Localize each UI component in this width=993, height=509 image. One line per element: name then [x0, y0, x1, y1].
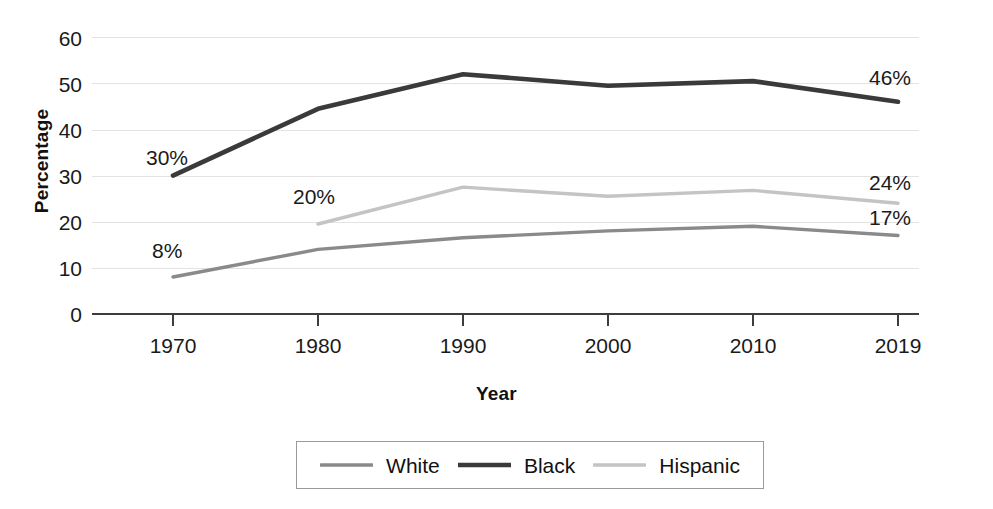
- plot-area: 60 50 40 30 20 10 0 1970 1980 1990 2000: [0, 0, 993, 509]
- y-axis-title: Percentage: [31, 86, 53, 236]
- data-label-white-2019: 17%: [869, 207, 911, 228]
- data-label-hispanic-1980: 20%: [293, 186, 335, 207]
- chart-legend: White Black Hispanic: [296, 441, 764, 489]
- data-label-black-1970: 30%: [146, 147, 188, 168]
- legend-swatch-white: [320, 461, 373, 469]
- legend-swatch-black: [458, 461, 511, 469]
- legend-label-white: White: [386, 455, 440, 476]
- chart-figure: 60 50 40 30 20 10 0 1970 1980 1990 2000: [0, 0, 993, 509]
- legend-swatch-hispanic: [593, 461, 646, 469]
- legend-item-hispanic[interactable]: Hispanic: [593, 455, 740, 476]
- data-label-white-1970: 8%: [152, 240, 182, 261]
- legend-item-black[interactable]: Black: [458, 455, 575, 476]
- x-axis-title: Year: [0, 383, 993, 405]
- series-line-black: [173, 74, 898, 175]
- legend-item-white[interactable]: White: [320, 455, 440, 476]
- data-label-black-2019: 46%: [869, 67, 911, 88]
- legend-label-hispanic: Hispanic: [659, 455, 740, 476]
- data-label-hispanic-2019: 24%: [869, 172, 911, 193]
- series-line-hispanic: [318, 187, 898, 224]
- legend-label-black: Black: [524, 455, 575, 476]
- series-line-white: [173, 226, 898, 277]
- series-layer: [0, 0, 993, 509]
